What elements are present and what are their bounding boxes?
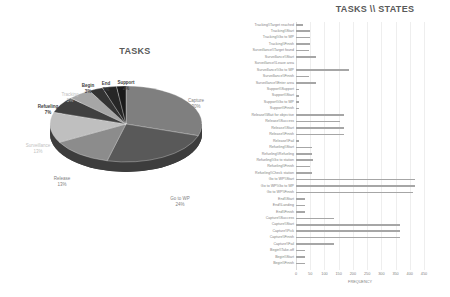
x-tick-label: 100 — [321, 272, 327, 276]
bar — [296, 230, 400, 232]
category-label: Surveillance\\Leave area — [254, 61, 294, 65]
bar — [296, 211, 305, 213]
pie-label-support: Support2% — [106, 80, 146, 91]
category-label: Capture\\Fail — [273, 242, 294, 246]
bar — [296, 24, 303, 26]
pie-label-percent: 24% — [160, 202, 200, 208]
x-tick-label: 300 — [378, 272, 384, 276]
bar — [296, 256, 305, 258]
bar — [296, 69, 349, 71]
bar — [296, 37, 310, 39]
category-label: Begin\\Start — [275, 255, 294, 259]
category-label: Release\\Fail — [273, 139, 294, 143]
gridline — [424, 22, 425, 270]
x-tick-label: 150 — [335, 272, 341, 276]
bar — [296, 140, 299, 142]
bar — [296, 95, 299, 97]
pie-label-surveillance: Surveillance13% — [18, 143, 58, 154]
x-tick-label: 350 — [392, 272, 398, 276]
bar — [296, 159, 313, 161]
bar — [296, 243, 334, 245]
bar — [296, 89, 299, 91]
category-label: Go to WP\\Start — [269, 177, 294, 181]
category-label: Release\\Wait for objective — [251, 113, 294, 117]
category-label: Capture\\Start — [272, 222, 294, 226]
bar — [296, 198, 305, 200]
x-tick-label: 450 — [421, 272, 427, 276]
category-label: Surveillance\\Start — [265, 55, 294, 59]
pie-label-percent: 7% — [28, 110, 68, 116]
category-label: Release\\Finish — [269, 132, 294, 136]
category-label: Release\\Success — [265, 119, 294, 123]
bar — [296, 30, 310, 32]
bar — [296, 50, 309, 52]
pie-label-percent: 5% — [50, 98, 90, 104]
bar — [296, 263, 305, 265]
pie-label-percent: 30% — [176, 104, 216, 110]
bar-title: TASKS \\ STATES — [320, 4, 430, 14]
category-label: Tracking\\Target reached — [254, 23, 294, 27]
bar — [296, 185, 415, 187]
pie-label-release: Release13% — [42, 176, 82, 187]
bar — [296, 147, 312, 149]
category-label: Support\\Go to WP — [264, 100, 294, 104]
category-label: Refueling\\Refueling — [262, 152, 294, 156]
category-label: End\\Finish — [276, 210, 294, 214]
category-label: Refueling\\Finish — [267, 164, 294, 168]
x-tick-label: 200 — [350, 272, 356, 276]
category-label: Tracking\\Start — [271, 29, 294, 33]
category-label: Surveillance\\Go to WP — [257, 68, 294, 72]
bar — [296, 76, 309, 78]
gridline — [339, 22, 340, 270]
category-label: Capture\\Pick — [272, 229, 294, 233]
tasks-pie-chart: TASKS Capture30%Go to WP24%Release13%Sur… — [0, 0, 240, 297]
bar — [296, 166, 310, 168]
bar — [296, 114, 344, 116]
bar — [296, 121, 340, 123]
bar — [296, 224, 400, 226]
bar — [296, 82, 316, 84]
bar — [296, 237, 400, 239]
category-label: Begin\\Finish — [273, 261, 294, 265]
gridline — [410, 22, 411, 270]
category-label: Support\\Start — [272, 93, 294, 97]
pie-label-go-to-wp: Go to WP24% — [160, 196, 200, 207]
x-tick-label: 50 — [308, 272, 312, 276]
x-tick-label: 250 — [364, 272, 370, 276]
pie-label-refueling: Refueling7% — [28, 104, 68, 115]
category-label: Go to WP\\Go to WP — [261, 184, 294, 188]
x-tick-label: 400 — [407, 272, 413, 276]
category-label: Begin\\Take-off — [270, 248, 294, 252]
category-label: End\\Start — [278, 197, 294, 201]
bar — [296, 108, 299, 110]
pie-label-percent: 13% — [42, 182, 82, 188]
gridline — [353, 22, 354, 270]
bar — [296, 127, 344, 129]
bar — [296, 205, 305, 207]
bar — [296, 101, 299, 103]
category-label: Support\\Finish — [270, 106, 294, 110]
gridline — [381, 22, 382, 270]
category-label: Refueling\\Check station — [255, 171, 294, 175]
pie-label-capture: Capture30% — [176, 98, 216, 109]
bar — [296, 172, 312, 174]
category-label: Surveillance\\Enter area — [256, 81, 294, 85]
category-label: Capture\\Success — [266, 216, 294, 220]
pie-label-percent: 13% — [18, 149, 58, 155]
category-label: Refueling\\Go to station — [256, 158, 294, 162]
bar — [296, 218, 334, 220]
bar — [296, 153, 312, 155]
category-label: Surveillance\\Finish — [263, 74, 294, 78]
category-label: Release\\Start — [271, 126, 294, 130]
x-tick-label: 0 — [295, 272, 297, 276]
bar — [296, 192, 413, 194]
category-label: Tracking\\Go to WP — [263, 35, 294, 39]
bar — [296, 56, 316, 58]
category-label: Capture\\Finish — [270, 235, 294, 239]
gridline — [367, 22, 368, 270]
gridline — [396, 22, 397, 270]
category-label: Tracking\\Finish — [269, 42, 294, 46]
bar — [296, 179, 415, 181]
bar — [296, 250, 305, 252]
x-axis-label: FREQUENCY — [330, 280, 390, 284]
